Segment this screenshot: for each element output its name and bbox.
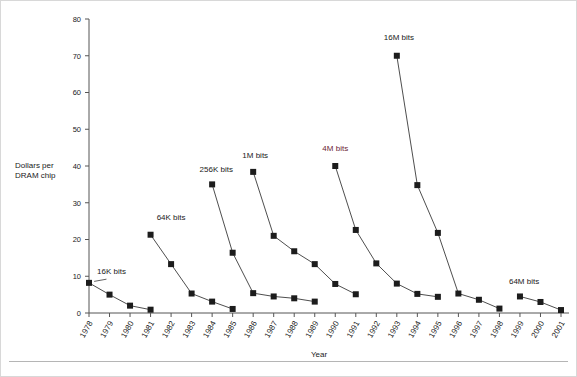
x-tick-label: 1997 bbox=[468, 319, 485, 339]
series-label-16k-bits: 16K bits bbox=[97, 267, 126, 276]
x-tick-label: 1996 bbox=[447, 319, 464, 339]
series-label-64m-bits: 64M bits bbox=[509, 277, 539, 286]
data-point-marker bbox=[209, 181, 215, 187]
data-point-marker bbox=[271, 233, 277, 239]
data-series bbox=[86, 53, 564, 313]
data-point-marker bbox=[353, 227, 359, 233]
y-axis-title-line1: Dollars per bbox=[15, 161, 54, 170]
data-point-marker bbox=[332, 163, 338, 169]
data-point-marker bbox=[373, 260, 379, 266]
data-point-marker bbox=[250, 169, 256, 175]
data-point-marker bbox=[189, 291, 195, 297]
x-tick-label: 1978 bbox=[78, 319, 95, 339]
series-line bbox=[89, 283, 151, 310]
y-axis-title-line2: DRAM chip bbox=[15, 171, 56, 180]
data-point-marker bbox=[517, 293, 523, 299]
data-point-marker bbox=[353, 291, 359, 297]
data-point-marker bbox=[312, 261, 318, 267]
data-point-marker bbox=[148, 232, 154, 238]
series-annotations: 16K bits64K bits256K bits1M bits4M bits1… bbox=[94, 33, 539, 285]
series-label-64k-bits: 64K bits bbox=[157, 213, 186, 222]
x-tick-label: 1989 bbox=[304, 319, 321, 339]
series-line bbox=[253, 172, 356, 294]
data-point-marker bbox=[414, 182, 420, 188]
series-line bbox=[335, 166, 438, 297]
data-point-marker bbox=[127, 303, 133, 309]
axes: 0102030405060708019781979198019811982198… bbox=[73, 15, 569, 340]
data-point-marker bbox=[537, 299, 543, 305]
x-tick-label: 1987 bbox=[263, 319, 280, 339]
series-label-256k-bits: 256K bits bbox=[200, 165, 233, 174]
x-tick-label: 1991 bbox=[345, 319, 362, 339]
chart-figure: 0102030405060708019781979198019811982198… bbox=[0, 0, 577, 377]
leader-line-16k bbox=[94, 279, 106, 281]
y-tick-label: 30 bbox=[73, 199, 81, 208]
data-point-marker bbox=[271, 293, 277, 299]
y-tick-label: 40 bbox=[73, 162, 81, 171]
y-tick-label: 60 bbox=[73, 88, 81, 97]
x-tick-label: 1999 bbox=[509, 319, 526, 339]
data-point-marker bbox=[435, 294, 441, 300]
y-tick-label: 70 bbox=[73, 52, 81, 61]
series-label-4m-bits: 4M bits bbox=[322, 144, 348, 153]
x-tick-label: 1986 bbox=[242, 319, 259, 339]
y-tick-label: 20 bbox=[73, 235, 81, 244]
x-tick-label: 1998 bbox=[488, 319, 505, 339]
data-point-marker bbox=[455, 291, 461, 297]
data-point-marker bbox=[250, 290, 256, 296]
x-axis-title: Year bbox=[311, 350, 328, 359]
data-point-marker bbox=[86, 280, 92, 286]
data-point-marker bbox=[496, 306, 502, 312]
data-point-marker bbox=[476, 297, 482, 303]
footer-divider bbox=[9, 361, 568, 362]
x-tick-label: 2001 bbox=[550, 319, 567, 339]
series-label-1m-bits: 1M bits bbox=[242, 151, 268, 160]
data-point-marker bbox=[394, 53, 400, 59]
data-point-marker bbox=[168, 261, 174, 267]
data-point-marker bbox=[414, 291, 420, 297]
y-tick-label: 0 bbox=[77, 309, 81, 318]
x-tick-label: 1994 bbox=[406, 319, 423, 339]
x-tick-label: 1980 bbox=[119, 319, 136, 339]
x-tick-label: 1984 bbox=[201, 319, 218, 339]
x-tick-label: 1983 bbox=[181, 319, 198, 339]
x-tick-label: 1988 bbox=[283, 319, 300, 339]
data-point-marker bbox=[332, 281, 338, 287]
series-line bbox=[151, 235, 233, 309]
x-tick-label: 1995 bbox=[427, 319, 444, 339]
dram-price-line-chart: 0102030405060708019781979198019811982198… bbox=[1, 1, 577, 377]
x-tick-label: 1990 bbox=[324, 319, 341, 339]
x-tick-label: 1985 bbox=[222, 319, 239, 339]
y-tick-label: 80 bbox=[73, 15, 81, 24]
data-point-marker bbox=[435, 230, 441, 236]
x-tick-label: 2000 bbox=[530, 319, 547, 339]
data-point-marker bbox=[230, 250, 236, 256]
y-tick-label: 50 bbox=[73, 125, 81, 134]
data-point-marker bbox=[230, 306, 236, 312]
data-point-marker bbox=[312, 299, 318, 305]
x-tick-label: 1993 bbox=[386, 319, 403, 339]
data-point-marker bbox=[558, 307, 564, 313]
x-tick-label: 1981 bbox=[140, 319, 157, 339]
x-tick-label: 1982 bbox=[160, 319, 177, 339]
data-point-marker bbox=[291, 248, 297, 254]
data-point-marker bbox=[209, 299, 215, 305]
x-tick-label: 1992 bbox=[365, 319, 382, 339]
data-point-marker bbox=[148, 307, 154, 313]
data-point-marker bbox=[394, 281, 400, 287]
series-line bbox=[397, 56, 500, 309]
series-label-16m-bits: 16M bits bbox=[384, 33, 414, 42]
data-point-marker bbox=[291, 295, 297, 301]
y-tick-label: 10 bbox=[73, 272, 81, 281]
x-tick-label: 1979 bbox=[99, 319, 116, 339]
series-line bbox=[212, 184, 315, 301]
data-point-marker bbox=[107, 292, 113, 298]
